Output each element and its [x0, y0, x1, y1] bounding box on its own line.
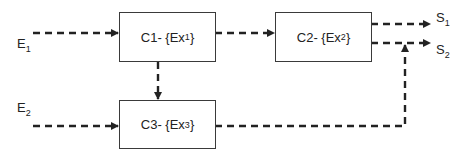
output-label-s2: S2 [436, 42, 450, 60]
input-label-e1: E1 [17, 36, 31, 54]
node-c2-name: C2 [297, 30, 314, 45]
node-c2: C2 - {Ex2} [275, 12, 372, 62]
edges-layer [0, 0, 463, 157]
node-c1: C1 - {Ex1} [119, 12, 216, 62]
input-label-e2: E2 [17, 100, 31, 118]
node-c3-name: C3 [141, 117, 158, 132]
node-c3: C3 - {Ex3} [119, 100, 216, 149]
output-label-s1: S1 [436, 10, 450, 28]
node-c1-name: C1 [141, 30, 158, 45]
